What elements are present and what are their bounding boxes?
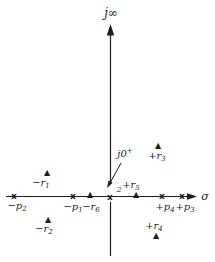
label-subscript: 4 <box>170 206 174 214</box>
pole-marker-origin-double: x <box>107 193 113 202</box>
pole-marker-pos-p3: x <box>179 192 185 201</box>
label-subscript: 1 <box>45 182 49 190</box>
axes-canvas <box>0 0 215 262</box>
zero-label-neg-r2: −r2 <box>35 224 53 236</box>
origin-annotation-arrow-line <box>110 163 122 184</box>
pole-label-neg-p1: −p1 <box>63 202 82 214</box>
pole-label-pos-p4: +p4 <box>155 202 174 214</box>
imaginary-axis-label: j∞ <box>104 7 118 19</box>
label-subscript: 3 <box>161 155 165 163</box>
pole-label-neg-p2: −p2 <box>7 201 26 213</box>
zero-label-neg-r1: −r1 <box>32 178 50 190</box>
label-subscript: 2 <box>48 228 52 236</box>
zero-marker-neg-r6: ▲ <box>87 191 93 199</box>
label-subscript: 4 <box>158 225 162 233</box>
label-subscript: 3 <box>190 206 194 214</box>
label-text: +r <box>122 179 135 190</box>
zero-marker-pos-r5: ▲ <box>133 191 139 199</box>
zero-marker-pos-r3: ▲ <box>155 142 161 150</box>
zero-marker-neg-r1: ▲ <box>44 169 50 177</box>
label-text: −r <box>35 223 48 234</box>
origin-annotation-superscript: + <box>127 147 133 155</box>
origin-annotation-label: j0+ <box>117 148 132 159</box>
zero-label-pos-r4: +r4 <box>145 221 163 233</box>
label-subscript: 5 <box>135 184 139 192</box>
label-text: +p <box>175 201 190 212</box>
label-text: −r <box>32 177 45 188</box>
pole-label-pos-p3: +p3 <box>175 202 194 214</box>
zero-label-neg-r6: −r6 <box>82 202 100 214</box>
zero-label-pos-r3: +r3 <box>148 151 166 163</box>
label-subscript: 2 <box>22 205 26 213</box>
imaginary-axis-arrowhead-icon <box>107 24 114 36</box>
pole-zero-diagram: j∞ σ j0+ 2 x x x x x ▲ ▲ ▲ ▲ ▲ ▲ −p2 −p1… <box>0 0 215 262</box>
origin-pole-multiplicity: 2 <box>116 186 121 194</box>
pole-marker-pos-p4: x <box>159 192 165 201</box>
label-subscript: 6 <box>95 206 99 214</box>
label-text: −r <box>82 201 95 212</box>
label-text: −p <box>7 200 22 211</box>
real-axis-arrowhead-icon <box>187 193 197 200</box>
zero-marker-pos-r4: ▲ <box>153 232 159 240</box>
label-text: +r <box>145 220 158 231</box>
pole-marker-neg-p1: x <box>70 192 76 201</box>
label-text: +p <box>155 201 170 212</box>
label-text: +r <box>148 150 161 161</box>
zero-label-pos-r5: +r5 <box>122 180 140 192</box>
label-text: −p <box>63 201 78 212</box>
real-axis-label: σ <box>201 191 209 202</box>
origin-annotation-arrowhead-icon <box>107 180 113 188</box>
